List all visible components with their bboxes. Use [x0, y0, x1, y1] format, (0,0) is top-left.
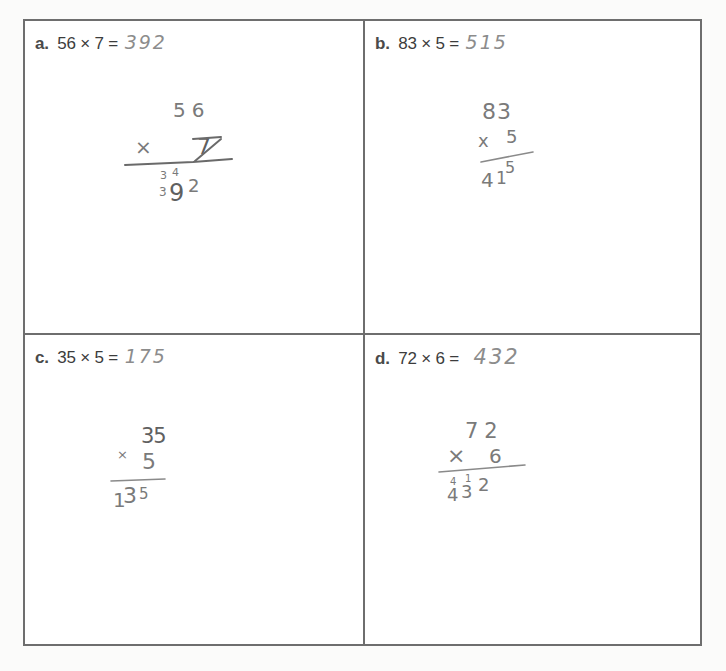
written-answer: 392	[125, 31, 167, 53]
handwritten-work-b: 83 x 5 4 1 5	[365, 21, 702, 333]
work-carry-mark: 4	[172, 166, 179, 179]
problem-expression: 83 × 5 =	[398, 34, 459, 53]
work-carry-mark: 4	[450, 476, 456, 487]
crossout-mark	[193, 137, 221, 161]
problem-letter: a.	[35, 34, 49, 53]
work-product-hundreds: 4	[447, 484, 458, 505]
work-carry-mark: 3	[160, 169, 167, 182]
problem-grid: a. 56 × 7 = 392 56 × 7 3 4 3 9 2 b. 83 ×…	[23, 19, 702, 646]
work-product-tens: 3	[461, 481, 472, 502]
work-operator: ×	[135, 135, 152, 159]
work-extra-digit: 3	[159, 185, 167, 199]
work-multiplier: 7	[197, 134, 211, 159]
work-multiplier: 5	[142, 449, 156, 474]
problem-prompt-b: b. 83 × 5 = 515	[375, 31, 508, 54]
problem-prompt-c: c. 35 × 5 = 175	[35, 345, 167, 368]
problem-expression: 35 × 5 =	[57, 348, 118, 367]
work-operator: ×	[117, 447, 128, 462]
work-underline	[439, 465, 525, 472]
work-top-number: 83	[482, 99, 512, 124]
problem-expression: 72 × 6 =	[398, 349, 459, 368]
written-answer: 175	[125, 345, 167, 367]
problem-cell-b: b. 83 × 5 = 515 83 x 5 4 1 5	[365, 21, 702, 333]
written-answer: 432	[474, 345, 520, 369]
problem-cell-a: a. 56 × 7 = 392 56 × 7 3 4 3 9 2	[25, 21, 363, 333]
work-multiplier: 5	[506, 126, 517, 147]
work-product-ones: 5	[505, 158, 515, 177]
work-top-number: 56	[173, 98, 210, 122]
work-multiplier: 6	[489, 444, 502, 468]
work-underline	[111, 479, 165, 481]
work-operator: x	[478, 130, 489, 151]
handwritten-work-d: 72 × 6 4 1 4 3 2	[365, 335, 702, 646]
work-underline	[481, 152, 533, 162]
work-product-tens: 1	[496, 168, 507, 188]
work-top-number: 72	[465, 419, 504, 443]
worksheet-page: a. 56 × 7 = 392 56 × 7 3 4 3 9 2 b. 83 ×…	[0, 0, 726, 671]
problem-expression: 56 × 7 =	[57, 34, 118, 53]
work-operator: ×	[447, 443, 465, 468]
problem-cell-c: c. 35 × 5 = 175 35 × 5 1 3 5	[25, 335, 363, 646]
problem-letter: b.	[375, 34, 390, 53]
problem-letter: c.	[35, 348, 49, 367]
work-product-tens: 9	[169, 179, 184, 207]
handwritten-work-a: 56 × 7 3 4 3 9 2	[25, 21, 363, 333]
work-product-ones: 2	[478, 474, 489, 495]
handwritten-work-c: 35 × 5 1 3 5	[25, 335, 363, 646]
problem-cell-d: d. 72 × 6 = 432 72 × 6 4 1 4 3 2	[365, 335, 702, 646]
problem-prompt-a: a. 56 × 7 = 392	[35, 31, 167, 54]
work-product-hundreds: 1	[113, 488, 126, 512]
problem-letter: d.	[375, 349, 390, 368]
work-product-ones: 5	[139, 485, 149, 503]
work-carry-mark: 1	[465, 473, 471, 484]
work-product-hundreds: 4	[481, 168, 494, 192]
work-product-tens: 3	[123, 483, 137, 508]
work-top-number: 35	[141, 424, 166, 448]
work-product-ones: 2	[188, 175, 199, 196]
work-underline	[125, 159, 232, 165]
problem-prompt-d: d. 72 × 6 = 432	[375, 345, 520, 369]
written-answer: 515	[466, 31, 508, 53]
